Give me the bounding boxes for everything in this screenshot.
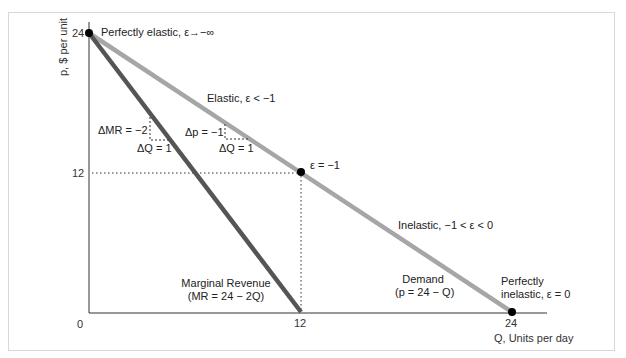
perf-inelastic-line2: inelastic, ε = 0 <box>501 288 570 301</box>
chart-plot <box>0 0 626 358</box>
mr-label-line2: (MR = 24 − 2Q) <box>172 290 280 303</box>
delta-p-label: Δp = −1 <box>185 126 224 139</box>
demand-label: Demand (p = 24 − Q) <box>395 273 451 299</box>
y-tick-12: 12 <box>72 167 84 179</box>
unit-elastic-label: ε = −1 <box>310 159 340 172</box>
marginal-revenue-label: Marginal Revenue (MR = 24 − 2Q) <box>172 277 280 303</box>
mr-label-line1: Marginal Revenue <box>172 277 280 290</box>
elastic-label: Elastic, ε < −1 <box>207 92 276 105</box>
perfectly-inelastic-label: Perfectly inelastic, ε = 0 <box>501 275 570 301</box>
perf-inelastic-line1: Perfectly <box>501 275 570 288</box>
inelastic-label: Inelastic, −1 < ε < 0 <box>398 219 493 232</box>
y-axis-label: p, $ per unit <box>57 18 69 76</box>
y-tick-24: 24 <box>72 27 84 39</box>
demand-label-line1: Demand <box>395 273 451 286</box>
delta-q-mr-label: ΔQ = 1 <box>137 142 172 155</box>
x-tick-12: 12 <box>294 317 306 329</box>
delta-mr-label: ΔMR = −2 <box>98 124 148 137</box>
perfectly-elastic-label: Perfectly elastic, ε→−∞ <box>101 26 214 39</box>
perfectly-elastic-point <box>85 29 93 37</box>
x-tick-0: 0 <box>77 318 83 330</box>
x-tick-24: 24 <box>505 317 517 329</box>
x-axis-label: Q, Units per day <box>494 332 573 345</box>
unit-elastic-point <box>297 168 305 176</box>
delta-q-demand-label: ΔQ = 1 <box>219 142 254 155</box>
perfectly-inelastic-point <box>508 308 516 316</box>
demand-label-line2: (p = 24 − Q) <box>395 286 451 299</box>
